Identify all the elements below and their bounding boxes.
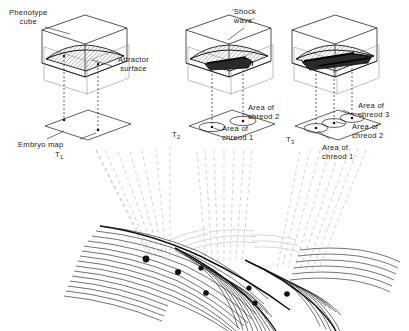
landscape-markers	[143, 256, 290, 306]
area-chreod-1-label-t2: Area of chreod 1	[222, 124, 254, 143]
time-label-t1: T1	[55, 150, 63, 160]
figure-canvas	[0, 0, 409, 331]
landscape-surface	[64, 226, 400, 331]
time-label-t2: T2	[172, 130, 180, 140]
area-chreod-2-label-t2: Area of chreod 2	[248, 103, 280, 122]
embryo-map-label: Embryo map	[18, 140, 64, 149]
time-label-t3: T3	[286, 135, 294, 145]
embryo-map-plane-t1	[45, 110, 131, 140]
area-chreod-1-label-t3: Area of chreod 1	[322, 143, 354, 162]
projection-lines-group	[96, 146, 366, 271]
attractor-surface-label: Attractor surface	[118, 55, 149, 74]
area-chreod-2-label-t3: Area of chreod 2	[352, 122, 384, 141]
area-chreod-3-label-t3: Area of chreod 3	[358, 101, 390, 120]
shock-wave-label: 'Shock wave'	[232, 7, 256, 26]
epigenetic-landscape-figure: Phenotype cube Attractor surface 'Shock …	[0, 0, 409, 331]
phenotype-cube-label: Phenotype cube	[9, 8, 48, 27]
